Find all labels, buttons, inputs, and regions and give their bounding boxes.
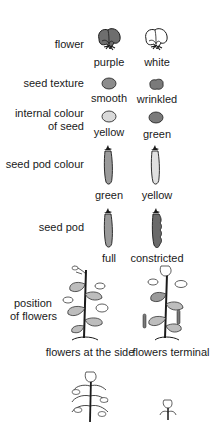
trait-label-flower: flower bbox=[55, 38, 84, 50]
green-seed-icon bbox=[148, 111, 164, 124]
variant-wrinkled: wrinkled bbox=[137, 93, 177, 105]
variant-green-pod: green bbox=[95, 189, 123, 201]
full-pod-icon bbox=[101, 207, 115, 249]
white-flower-icon bbox=[143, 27, 169, 53]
variant-smooth: smooth bbox=[91, 92, 127, 104]
smooth-seed-icon bbox=[101, 77, 117, 90]
trait-label-seed-pod-colour: seed pod colour bbox=[6, 158, 84, 170]
variant-flowers-at-side: flowers at the side bbox=[46, 346, 135, 358]
yellow-seed-icon bbox=[101, 110, 117, 123]
trait-label-of-seed: of seed bbox=[48, 120, 84, 132]
variant-green-seed: green bbox=[143, 128, 171, 140]
variant-full: full bbox=[102, 252, 116, 264]
plant-flowers-terminal-icon bbox=[143, 264, 193, 342]
variant-purple: purple bbox=[94, 56, 125, 68]
plant-tall-icon bbox=[68, 372, 118, 422]
constricted-pod-icon bbox=[149, 207, 163, 249]
trait-label-of-flowers: of flowers bbox=[10, 310, 57, 322]
trait-label-seed-texture: seed texture bbox=[23, 77, 84, 89]
variant-constricted: constricted bbox=[130, 252, 183, 264]
trait-label-position: position bbox=[14, 297, 52, 309]
trait-label-seed-pod: seed pod bbox=[39, 221, 84, 233]
plant-flowers-side-icon bbox=[62, 264, 112, 342]
trait-label-internal-colour: internal colour bbox=[15, 107, 84, 119]
variant-flowers-terminal: flowers terminal bbox=[132, 346, 209, 358]
variant-yellow-seed: yellow bbox=[94, 126, 125, 138]
variant-white: white bbox=[144, 56, 170, 68]
variant-yellow-pod: yellow bbox=[142, 189, 173, 201]
yellow-pod-icon bbox=[148, 144, 162, 186]
green-pod-icon bbox=[101, 144, 115, 186]
purple-flower-icon bbox=[96, 27, 122, 53]
wrinkled-seed-icon bbox=[148, 78, 165, 91]
plant-short-icon bbox=[158, 400, 178, 420]
